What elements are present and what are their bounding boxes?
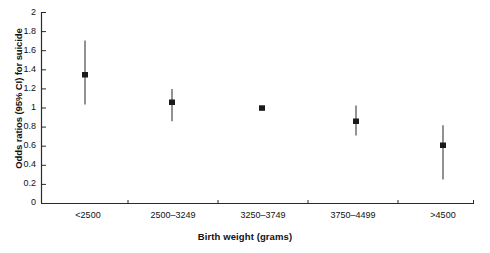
chart-plot-area	[0, 0, 490, 253]
data-marker	[82, 72, 88, 78]
data-point-group	[440, 125, 446, 179]
data-point-group	[82, 41, 88, 105]
data-point-group	[169, 89, 175, 121]
y-tick-marks	[42, 13, 47, 204]
chart-figure: Odds ratios (95% CI) for suicide Birth w…	[0, 0, 490, 253]
data-marker	[169, 100, 175, 106]
data-marker	[353, 119, 359, 125]
data-marker	[259, 105, 265, 111]
data-marker	[440, 143, 446, 149]
data-point-group	[353, 106, 359, 136]
data-point-group	[259, 105, 265, 111]
